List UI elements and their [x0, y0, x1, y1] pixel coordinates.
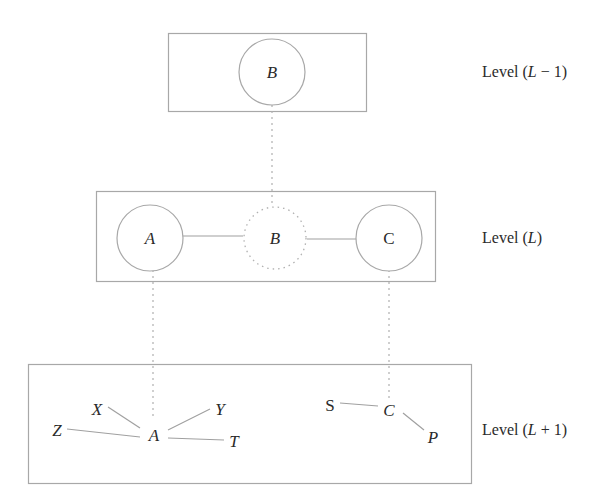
lower-node-C: C: [383, 401, 395, 420]
lower-node-A: A: [148, 426, 160, 445]
hierarchy-diagram: B A B C X Y Z A T S C P Level (L − 1) Le…: [0, 0, 607, 504]
current-node-A: A: [117, 205, 183, 271]
current-node-C: C: [356, 205, 422, 271]
lower-node-Y: Y: [215, 400, 226, 419]
lower-node-P: P: [427, 428, 438, 447]
edge-S-C: [340, 403, 378, 406]
lower-node-S: S: [325, 396, 334, 415]
edge-Y-A: [168, 409, 210, 430]
lower-node-T: T: [229, 432, 240, 451]
current-node-B-dotted: B: [244, 207, 306, 269]
level-label-current: Level (L): [482, 229, 542, 247]
level-lower-box: [29, 365, 472, 484]
edge-C-P: [403, 413, 424, 430]
node-label: B: [270, 229, 281, 248]
node-label: C: [383, 229, 394, 248]
node-label: B: [267, 63, 278, 82]
lower-node-X: X: [91, 400, 103, 419]
level-label-lower: Level (L + 1): [482, 421, 567, 439]
edge-Z-A: [67, 429, 140, 437]
edge-T-A: [168, 438, 224, 440]
lower-node-Z: Z: [52, 421, 62, 440]
upper-node-B: B: [239, 39, 305, 105]
edge-X-A: [108, 407, 140, 428]
node-label: A: [144, 229, 156, 248]
level-label-upper: Level (L − 1): [482, 63, 567, 81]
